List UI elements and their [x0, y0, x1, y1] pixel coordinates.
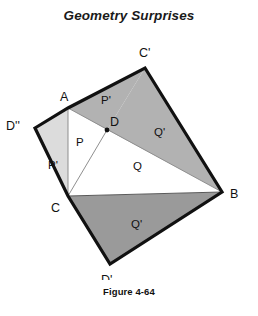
figure-title: Geometry Surprises — [0, 8, 258, 23]
geometry-diagram: C' A D'' D B C D' P' P P' Q' Q Q' — [0, 28, 258, 280]
vertex-label-d: D — [110, 115, 119, 129]
region-label-p-prime-top: P' — [101, 94, 111, 106]
figure-caption: Figure 4-64 — [0, 286, 258, 297]
vertex-label-d-double-prime: D'' — [6, 119, 20, 133]
vertex-label-c-prime: C' — [139, 46, 150, 60]
figure-container: Geometry Surprises C' A D'' D B C D' P' … — [0, 0, 258, 316]
vertex-label-d-prime: D' — [101, 273, 112, 280]
region-label-q-prime-bottom: Q' — [131, 218, 142, 230]
vertex-label-c: C — [51, 201, 60, 215]
region-label-p-prime-left: P' — [48, 159, 58, 171]
vertex-label-b: B — [230, 187, 238, 201]
region-label-p: P — [76, 136, 84, 148]
region-q-prime-bottom — [68, 192, 222, 264]
vertex-label-a: A — [60, 90, 69, 104]
region-label-q: Q — [133, 160, 142, 172]
point-d-marker — [105, 128, 110, 133]
region-label-q-prime-right: Q' — [154, 126, 165, 138]
